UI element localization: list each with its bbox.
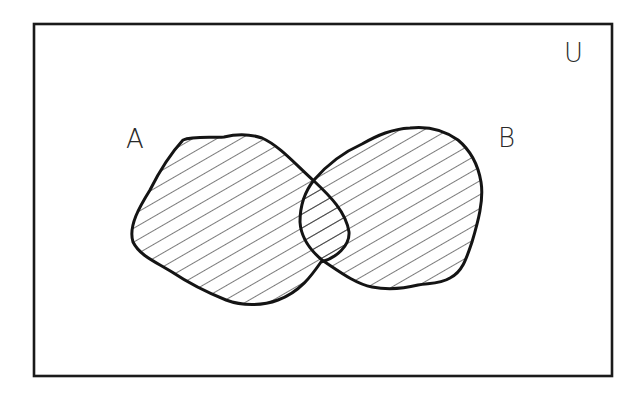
universe-label: U — [564, 38, 583, 68]
set-a-label: A — [126, 124, 144, 154]
set-b-label: B — [498, 123, 515, 153]
venn-diagram: U A B — [0, 0, 643, 395]
set-b-hatching — [280, 100, 510, 320]
